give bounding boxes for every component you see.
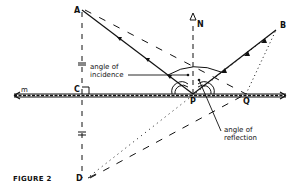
angle-of-incidence-label: angle of incidence	[90, 63, 124, 79]
diagram-drawing	[0, 0, 300, 191]
dotted-path-qb	[246, 30, 276, 94]
point-q-label: Q	[243, 98, 250, 106]
point-d-label: D	[76, 175, 83, 183]
point-a-label: A	[74, 7, 80, 15]
right-angle-icon	[82, 87, 89, 94]
angle-of-reflection-label: angle of reflection	[224, 126, 257, 142]
angle-arc	[168, 67, 221, 75]
dashed-path-dq	[90, 94, 246, 178]
dashed-path-aq	[85, 10, 246, 94]
mirror-m-label: m	[21, 87, 28, 94]
figure-caption: FIGURE 2	[13, 176, 52, 183]
point-c-label: C	[74, 86, 80, 94]
point-b-label: B	[280, 22, 286, 30]
reflection-diagram: A B C D P Q N m angle of incidence angle…	[0, 0, 300, 191]
incident-ray	[82, 10, 193, 94]
normal-n-label: N	[197, 21, 204, 29]
point-p-label: P	[190, 98, 196, 106]
normal-arrow-icon	[190, 13, 196, 20]
reflection-leader	[199, 80, 221, 131]
